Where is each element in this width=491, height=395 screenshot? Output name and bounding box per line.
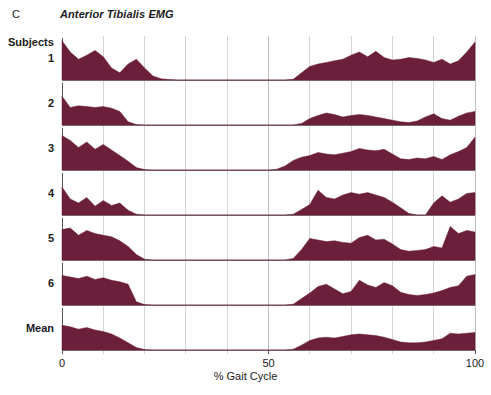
row-label-4: 4 bbox=[2, 187, 54, 199]
row-label-2: 2 bbox=[2, 97, 54, 109]
x-tick-label: 50 bbox=[249, 357, 289, 369]
x-axis-title: % Gait Cycle bbox=[0, 370, 491, 382]
row-label-3: 3 bbox=[2, 142, 54, 154]
x-tick-label: 100 bbox=[455, 357, 491, 369]
row-label-5: 5 bbox=[2, 232, 54, 244]
emg-trace-plot bbox=[0, 0, 491, 395]
row-label-6: 6 bbox=[2, 277, 54, 289]
row-label-1: 1 bbox=[2, 52, 54, 64]
row-label-mean: Mean bbox=[2, 322, 54, 334]
x-tick-label: 0 bbox=[42, 357, 82, 369]
emg-figure: C Anterior Tibialis EMG Subjects 123456M… bbox=[0, 0, 491, 395]
